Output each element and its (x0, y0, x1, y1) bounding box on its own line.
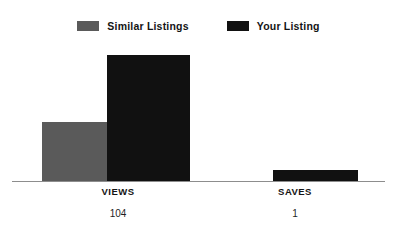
bar-views-similar-listings[interactable] (42, 122, 107, 181)
chart-plot-area (0, 0, 397, 234)
category-label-saves: SAVES (278, 186, 312, 197)
listing-performance-chart: Similar Listings Your Listing VIEWS 104 … (0, 0, 397, 234)
category-group-views: VIEWS 104 (78, 186, 158, 219)
category-label-views: VIEWS (102, 186, 135, 197)
category-value-saves: 1 (292, 208, 298, 219)
bar-saves-your-listing[interactable] (273, 170, 358, 181)
category-group-saves: SAVES 1 (255, 186, 335, 219)
x-axis-baseline (12, 181, 385, 182)
category-value-views: 104 (110, 208, 127, 219)
bar-views-your-listing[interactable] (107, 55, 190, 181)
